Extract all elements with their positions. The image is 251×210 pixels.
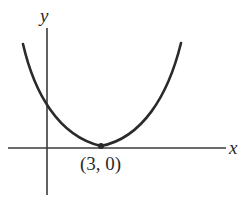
graph-canvas: y x (3, 0) xyxy=(0,0,251,210)
vertex-label: (3, 0) xyxy=(80,153,121,175)
x-axis-label: x xyxy=(228,137,238,158)
y-axis-label: y xyxy=(38,5,49,26)
vertex-point xyxy=(98,143,104,149)
